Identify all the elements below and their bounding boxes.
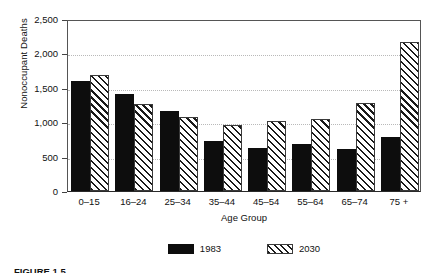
bar-2030-75 [400, 42, 419, 191]
legend-label-2030: 2030 [299, 243, 320, 254]
y-axis-tick-label: 1,000 [4, 118, 58, 128]
bar-1983-75 [381, 137, 400, 191]
x-axis-tick-label: 75 + [369, 196, 429, 207]
bar-2030-6574 [356, 103, 375, 191]
bar-group [115, 21, 153, 191]
bar-1983-2534 [160, 111, 179, 191]
bar-2030-3544 [223, 125, 242, 191]
bar-group [71, 21, 109, 191]
legend-item-2030: 2030 [267, 243, 320, 254]
bar-1983-3544 [204, 141, 223, 191]
bar-group [248, 21, 286, 191]
y-axis-tick-label: 1,500 [4, 84, 58, 94]
bar-group [337, 21, 375, 191]
legend-item-1983: 1983 [168, 243, 221, 254]
y-axis-tick-label: 2,500 [4, 15, 58, 25]
y-axis-tick-label: 2,000 [4, 49, 58, 59]
bar-group [160, 21, 198, 191]
y-axis-tick [62, 192, 67, 193]
bar-series-container [68, 21, 420, 191]
legend: 1983 2030 [67, 243, 421, 254]
bar-1983-6574 [337, 149, 356, 191]
y-axis-tick-label: 500 [4, 153, 58, 163]
figure-container: Nonoccupant Deaths 05001,0001,5002,0002,… [0, 0, 435, 273]
bar-2030-4554 [267, 121, 286, 191]
bar-2030-2534 [179, 117, 198, 191]
bar-group [381, 21, 419, 191]
x-axis-title: Age Group [67, 212, 421, 223]
bar-1983-4554 [248, 148, 267, 191]
plot-area [67, 20, 421, 192]
legend-label-1983: 1983 [200, 243, 221, 254]
bar-2030-5564 [311, 119, 330, 191]
bar-1983-015 [71, 81, 90, 191]
bar-1983-5564 [292, 144, 311, 191]
bar-2030-015 [90, 75, 109, 191]
diagonal-hatch-swatch-icon [267, 244, 293, 254]
solid-black-swatch-icon [168, 244, 194, 254]
figure-caption: FIGURE 1.5 [14, 266, 424, 273]
bar-group [292, 21, 330, 191]
y-axis-tick-label: 0 [4, 187, 58, 197]
bar-group [204, 21, 242, 191]
bar-1983-1624 [115, 94, 134, 191]
bar-2030-1624 [134, 104, 153, 191]
